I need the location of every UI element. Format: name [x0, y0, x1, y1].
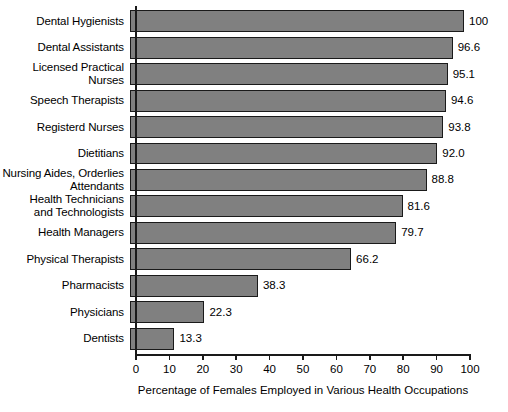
bar: [130, 328, 174, 350]
chart-row: Dentists13.3: [0, 325, 508, 351]
category-label: Physical Therapists: [0, 253, 130, 266]
bar: [130, 90, 446, 112]
bar: [130, 169, 427, 191]
category-label: Licensed Practical Nurses: [0, 61, 130, 87]
x-tick: [369, 354, 371, 360]
bar-value-label: 93.8: [443, 121, 470, 134]
bar-track: 95.1: [130, 61, 508, 87]
bar-value-label: 38.3: [258, 279, 285, 292]
bar-track: 38.3: [130, 273, 508, 299]
chart-row: Nursing Aides, Orderlies Attendants88.8: [0, 167, 508, 193]
bar-value-label: 22.3: [204, 306, 231, 319]
bar: [130, 37, 453, 59]
bar-track: 92.0: [130, 140, 508, 166]
bar-track: 22.3: [130, 299, 508, 325]
category-label: Speech Therapists: [0, 94, 130, 107]
bar-value-label: 13.3: [174, 332, 201, 345]
chart-row: Registerd Nurses93.8: [0, 114, 508, 140]
bar: [130, 195, 403, 217]
x-tick-label: 40: [263, 362, 276, 376]
chart-row: Health Technicians and Technologists81.6: [0, 193, 508, 219]
bar-track: 100: [130, 8, 508, 34]
chart-row: Physicians22.3: [0, 299, 508, 325]
category-label: Dietitians: [0, 147, 130, 160]
bar-value-label: 66.2: [351, 253, 378, 266]
bar: [130, 301, 204, 323]
category-label: Registerd Nurses: [0, 121, 130, 134]
chart-row: Licensed Practical Nurses95.1: [0, 61, 508, 87]
chart-row: Dental Hygienists100: [0, 8, 508, 34]
bar: [130, 248, 351, 270]
chart-row: Pharmacists38.3: [0, 273, 508, 299]
x-tick: [302, 354, 304, 360]
bar-track: 88.8: [130, 167, 508, 193]
bar: [130, 10, 464, 32]
category-label: Pharmacists: [0, 279, 130, 292]
bar: [130, 143, 437, 165]
bar-track: 79.7: [130, 220, 508, 246]
bar-value-label: 81.6: [403, 200, 430, 213]
bar-value-label: 92.0: [437, 147, 464, 160]
bar-value-label: 95.1: [448, 68, 475, 81]
x-tick-label: 90: [430, 362, 443, 376]
x-tick-label: 10: [163, 362, 176, 376]
bar-value-label: 79.7: [396, 226, 423, 239]
x-tick-label: 100: [460, 362, 479, 376]
bar-value-label: 100: [464, 15, 488, 28]
bar-track: 66.2: [130, 246, 508, 272]
bar: [130, 222, 396, 244]
chart-row: Dental Assistants96.6: [0, 34, 508, 60]
category-label: Dental Assistants: [0, 41, 130, 54]
bar-chart: Dental Hygienists100Dental Assistants96.…: [0, 0, 508, 412]
chart-plot-area: Dental Hygienists100Dental Assistants96.…: [0, 8, 508, 352]
x-tick-label: 20: [196, 362, 209, 376]
bar-track: 13.3: [130, 325, 508, 351]
chart-row: Speech Therapists94.6: [0, 87, 508, 113]
x-tick: [202, 354, 204, 360]
x-tick: [436, 354, 438, 360]
x-tick-label: 0: [133, 362, 139, 376]
category-label: Dental Hygienists: [0, 15, 130, 28]
category-label: Dentists: [0, 332, 130, 345]
category-label: Nursing Aides, Orderlies Attendants: [0, 167, 130, 193]
bar: [130, 63, 448, 85]
bar-value-label: 88.8: [427, 173, 454, 186]
x-tick-label: 60: [330, 362, 343, 376]
bar: [130, 116, 443, 138]
x-axis-title: Percentage of Females Employed in Variou…: [136, 383, 470, 397]
chart-row: Physical Therapists66.2: [0, 246, 508, 272]
x-tick: [469, 354, 471, 360]
x-tick-label: 80: [397, 362, 410, 376]
bar-value-label: 96.6: [453, 41, 480, 54]
x-tick: [269, 354, 271, 360]
x-tick-label: 30: [230, 362, 243, 376]
category-label: Health Managers: [0, 226, 130, 239]
bar-track: 94.6: [130, 87, 508, 113]
x-tick-label: 50: [297, 362, 310, 376]
bar-track: 93.8: [130, 114, 508, 140]
chart-row: Dietitians92.0: [0, 140, 508, 166]
x-tick: [402, 354, 404, 360]
x-tick: [135, 354, 137, 360]
x-tick-label: 70: [363, 362, 376, 376]
bar-track: 96.6: [130, 34, 508, 60]
category-label: Health Technicians and Technologists: [0, 193, 130, 219]
bar-track: 81.6: [130, 193, 508, 219]
bar: [130, 275, 258, 297]
y-axis-line: [135, 6, 137, 354]
x-tick: [336, 354, 338, 360]
x-tick: [169, 354, 171, 360]
bar-value-label: 94.6: [446, 94, 473, 107]
category-label: Physicians: [0, 306, 130, 319]
chart-row: Health Managers79.7: [0, 220, 508, 246]
x-tick: [235, 354, 237, 360]
